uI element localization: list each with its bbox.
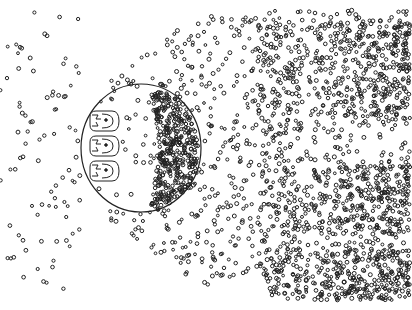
particle-dots xyxy=(0,8,412,302)
organisms-group xyxy=(90,111,119,181)
stipple-illustration xyxy=(0,0,412,310)
organism-icon xyxy=(90,161,119,181)
cell-particle-drawing xyxy=(0,0,412,310)
organism-icon xyxy=(90,136,119,156)
organism-icon xyxy=(90,111,119,131)
